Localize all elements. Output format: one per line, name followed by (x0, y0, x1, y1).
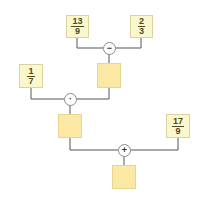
plus-operator-icon: + (118, 144, 131, 157)
fraction: 2 3 (138, 17, 145, 36)
given-box-1-7: 1 7 (19, 64, 43, 88)
given-box-17-9: 17 9 (166, 114, 190, 138)
result-box-multiply[interactable] (58, 114, 82, 138)
fraction: 13 9 (71, 17, 83, 36)
given-box-13-9: 13 9 (66, 15, 89, 38)
fraction: 1 7 (27, 67, 34, 86)
denominator: 3 (139, 27, 144, 36)
denominator: 9 (75, 27, 80, 36)
multiply-operator-icon: · (64, 93, 77, 106)
given-box-2-3: 2 3 (130, 15, 153, 38)
result-box-subtract[interactable] (97, 63, 121, 88)
denominator: 9 (175, 127, 180, 136)
denominator: 7 (28, 77, 33, 86)
numerator: 1 (27, 67, 34, 77)
fraction: 17 9 (172, 117, 184, 136)
minus-operator-icon: − (103, 42, 116, 55)
numerator: 17 (172, 117, 184, 127)
result-box-add[interactable] (112, 165, 136, 189)
connector-lines (0, 0, 201, 197)
